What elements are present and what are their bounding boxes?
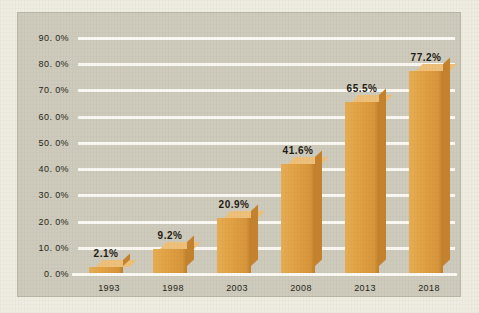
plot-area: 90. 0% 80. 0% 70. 0% 60. 0% 50. 0% 40. 0…	[17, 12, 461, 297]
bar-side-2013	[379, 88, 386, 266]
gridline-40	[78, 168, 455, 171]
y-axis-tick-80: 80. 0%	[17, 59, 69, 69]
gridline-70	[78, 89, 455, 92]
gridline-80	[78, 63, 455, 66]
bar-top-1993	[96, 260, 137, 267]
bar-top-2018	[416, 64, 457, 71]
y-axis-tick-90: 90. 0%	[17, 33, 69, 43]
gridline-90	[78, 37, 455, 40]
gridline-20	[78, 221, 455, 224]
x-axis-tick-2018: 2018	[418, 283, 440, 293]
value-label-2013: 65.5%	[347, 83, 378, 94]
gridline-50	[78, 142, 455, 145]
value-label-2008: 41.6%	[283, 145, 314, 156]
value-label-2003: 20.9%	[219, 199, 250, 210]
x-axis-tick-1998: 1998	[162, 283, 184, 293]
gridline-30	[78, 194, 455, 197]
gridline-10	[78, 247, 455, 250]
y-axis-tick-50: 50. 0%	[17, 138, 69, 148]
bar-top-2003	[224, 211, 265, 218]
bar-1998[interactable]	[153, 249, 187, 273]
bar-side-2003	[251, 204, 258, 266]
bar-2008[interactable]	[281, 164, 315, 273]
gridline-60	[78, 116, 455, 119]
x-axis-tick-2008: 2008	[290, 283, 312, 293]
bar-side-1998	[187, 235, 194, 266]
value-label-1993: 2.1%	[94, 248, 119, 259]
bar-2018[interactable]	[409, 71, 443, 273]
bar-side-2008	[315, 150, 322, 266]
bar-2013[interactable]	[345, 102, 379, 273]
x-axis-tick-1993: 1993	[98, 283, 120, 293]
bar-top-1998	[160, 242, 201, 249]
bar-1993[interactable]	[89, 267, 123, 273]
bar-top-2013	[352, 95, 393, 102]
bar-2003[interactable]	[217, 218, 251, 273]
axis-baseline	[72, 273, 457, 276]
bar-chart-figure: 90. 0% 80. 0% 70. 0% 60. 0% 50. 0% 40. 0…	[0, 0, 479, 313]
y-axis-tick-60: 60. 0%	[17, 112, 69, 122]
y-axis-tick-10: 10. 0%	[17, 243, 69, 253]
y-axis-tick-20: 20. 0%	[17, 217, 69, 227]
x-axis-tick-2003: 2003	[226, 283, 248, 293]
bar-top-2008	[288, 157, 329, 164]
y-axis-tick-70: 70. 0%	[17, 85, 69, 95]
value-label-1998: 9.2%	[158, 230, 183, 241]
x-axis-tick-2013: 2013	[354, 283, 376, 293]
y-axis-tick-0: 0. 0%	[17, 269, 69, 279]
y-axis-tick-40: 40. 0%	[17, 164, 69, 174]
y-axis-tick-30: 30. 0%	[17, 190, 69, 200]
bar-side-2018	[443, 57, 450, 266]
value-label-2018: 77.2%	[411, 52, 442, 63]
